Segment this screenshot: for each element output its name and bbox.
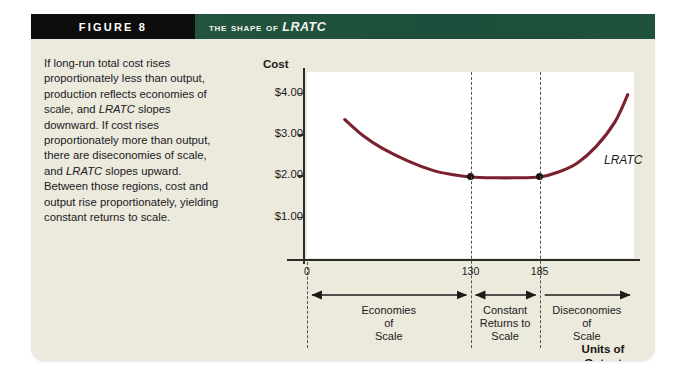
x-axis-title-line: Units of <box>568 343 638 357</box>
figure-panel: FIGURE 8 The Shape of LRATC If long-run … <box>31 14 655 361</box>
region-label-line: of <box>531 317 643 330</box>
figure-number-label: FIGURE 8 <box>79 21 147 33</box>
figure-title-prefix: The Shape of <box>209 21 282 33</box>
region-label-diseconomies-of-scale: DiseconomiesofScale <box>531 304 643 343</box>
figure-title-emphasis: LRATC <box>282 20 326 34</box>
region-label-line: Economies <box>333 304 445 317</box>
region-label-line: of <box>333 317 445 330</box>
x-axis-title-line: Output <box>568 357 638 362</box>
x-axis-title: Units ofOutput <box>568 343 638 361</box>
figure-title: The Shape of LRATC <box>209 20 326 34</box>
caption-emphasis-2: LRATC <box>66 165 102 177</box>
region-label-line: Scale <box>333 330 445 343</box>
caption-emphasis-1: LRATC <box>99 103 135 115</box>
figure-number-block: FIGURE 8 <box>31 14 195 39</box>
figure-title-block: The Shape of LRATC <box>195 14 655 39</box>
region-label-line: Diseconomies <box>531 304 643 317</box>
region-label-line: Scale <box>531 330 643 343</box>
figure-header: FIGURE 8 The Shape of LRATC <box>31 14 655 39</box>
figure-caption: If long-run total cost rises proportiona… <box>44 56 219 225</box>
chart: Cost $4.00$3.00$2.00$1.00 LRATC 0 130 18… <box>227 46 647 358</box>
region-label-economies-of-scale: EconomiesofScale <box>333 304 445 343</box>
